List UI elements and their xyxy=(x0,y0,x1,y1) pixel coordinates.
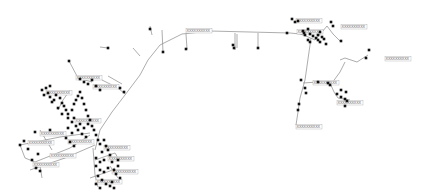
node-square-icon xyxy=(340,40,343,43)
node-label: XXXXXXXXXX xyxy=(51,153,75,158)
node-label: XXXXXXXXXX xyxy=(342,24,366,29)
node-square-icon xyxy=(45,87,48,90)
node-square-icon xyxy=(105,183,108,186)
node-square-icon xyxy=(340,89,343,92)
node-square-icon xyxy=(300,79,303,82)
node-square-icon xyxy=(309,33,312,36)
node-square-icon xyxy=(319,41,322,44)
node-square-icon xyxy=(97,139,100,142)
node-square-icon xyxy=(85,136,88,139)
node-square-icon xyxy=(47,92,50,95)
node-square-icon xyxy=(257,47,260,50)
node-square-icon xyxy=(57,107,60,110)
node-square-icon xyxy=(67,117,70,120)
node-square-icon xyxy=(119,87,122,90)
node-square-icon xyxy=(41,89,44,92)
node-square-icon xyxy=(99,89,102,92)
node-square-icon xyxy=(365,57,368,60)
node-square-icon xyxy=(68,60,71,63)
node-square-icon xyxy=(103,139,106,142)
node-square-icon xyxy=(304,34,307,37)
node-square-icon xyxy=(107,167,110,170)
node-label: XXXXXXXXXX xyxy=(109,156,133,161)
node-label: XXXXXXXXXX xyxy=(47,90,71,95)
node-square-icon xyxy=(297,109,300,112)
node-square-icon xyxy=(117,165,120,168)
node-square-icon xyxy=(23,140,26,143)
node-square-icon xyxy=(49,96,52,99)
edge xyxy=(340,58,357,62)
node-label: XXXXXXXXXX xyxy=(386,56,410,61)
node-square-icon xyxy=(81,97,84,100)
node-square-icon xyxy=(67,127,70,130)
node-square-icon xyxy=(117,159,120,162)
node-square-icon xyxy=(297,20,300,23)
node-square-icon xyxy=(73,145,76,148)
node-square-icon xyxy=(317,81,320,84)
node-square-icon xyxy=(87,83,90,86)
network-canvas: XXXXXXXXXXXXXXXXXXXXXXXXXXXXXXXXXXXXXXXX… xyxy=(0,0,424,196)
node-square-icon xyxy=(368,49,371,52)
node-square-icon xyxy=(55,94,58,97)
node-square-icon xyxy=(81,133,84,136)
node-square-icon xyxy=(107,149,110,152)
node-square-icon xyxy=(87,115,90,118)
node-square-icon xyxy=(39,170,42,173)
node-square-icon xyxy=(103,171,106,174)
node-square-icon xyxy=(113,169,116,172)
node-square-icon xyxy=(330,21,333,24)
node-square-icon xyxy=(105,145,108,148)
node-square-icon xyxy=(291,18,294,21)
edge xyxy=(327,26,340,41)
node-square-icon xyxy=(37,153,40,156)
nodes-layer xyxy=(19,18,371,190)
node-label: XXXXXXXXXX xyxy=(76,118,100,123)
edge xyxy=(162,30,163,52)
node-square-icon xyxy=(61,102,64,105)
node-square-icon xyxy=(99,169,102,172)
node-square-icon xyxy=(65,109,68,112)
node-square-icon xyxy=(149,28,152,31)
edge xyxy=(133,48,140,56)
node-square-icon xyxy=(61,113,64,116)
node-square-icon xyxy=(115,173,118,176)
node-square-icon xyxy=(344,105,347,108)
edge xyxy=(150,26,152,35)
node-square-icon xyxy=(323,38,326,41)
node-square-icon xyxy=(113,187,116,190)
node-square-icon xyxy=(51,101,54,104)
node-square-icon xyxy=(67,113,70,116)
node-square-icon xyxy=(75,125,78,128)
node-square-icon xyxy=(77,129,80,132)
node-square-icon xyxy=(101,179,104,182)
node-square-icon xyxy=(83,103,86,106)
edges-layer xyxy=(20,26,368,187)
node-square-icon xyxy=(85,109,88,112)
node-square-icon xyxy=(99,143,102,146)
node-label: XXXXXXXXXX xyxy=(297,124,321,129)
node-label: XXXXXXXXXX xyxy=(69,139,93,144)
node-square-icon xyxy=(89,119,92,122)
node-label: XXXXXXXXXX xyxy=(297,18,321,23)
node-square-icon xyxy=(19,144,22,147)
edge xyxy=(90,168,115,178)
node-square-icon xyxy=(83,127,86,130)
edge xyxy=(108,76,122,84)
node-square-icon xyxy=(109,185,112,188)
node-square-icon xyxy=(332,25,335,28)
node-square-icon xyxy=(162,51,165,54)
node-square-icon xyxy=(109,154,112,157)
node-square-icon xyxy=(111,181,114,184)
edge xyxy=(95,31,300,150)
node-square-icon xyxy=(99,187,102,190)
node-square-icon xyxy=(34,131,37,134)
node-square-icon xyxy=(93,129,96,132)
node-square-icon xyxy=(83,81,86,84)
node-square-icon xyxy=(97,175,100,178)
labels-layer: XXXXXXXXXXXXXXXXXXXXXXXXXXXXXXXXXXXXXXXX… xyxy=(28,18,411,184)
node-square-icon xyxy=(185,48,188,51)
node-square-icon xyxy=(79,123,82,126)
node-square-icon xyxy=(111,161,114,164)
node-label: XXXXXXXXXX xyxy=(29,140,53,145)
node-square-icon xyxy=(305,92,308,95)
